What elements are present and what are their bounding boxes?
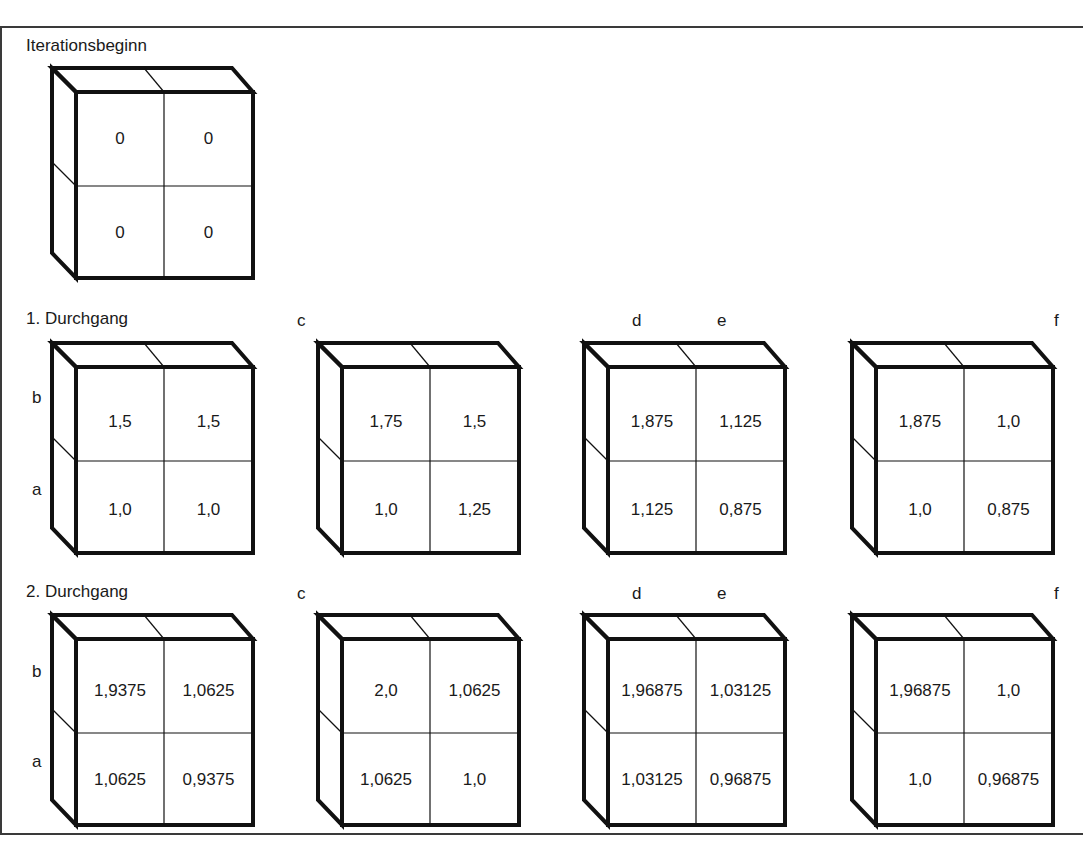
cell-bottom-right: 0,9375 bbox=[164, 770, 253, 790]
cell-bottom-left: 1,0625 bbox=[342, 770, 430, 790]
cell-bottom-left: 1,0 bbox=[342, 500, 430, 520]
cell-bottom-left: 0 bbox=[76, 223, 164, 243]
side-label-a-pass2: a bbox=[32, 752, 41, 772]
cell-top-right: 0 bbox=[164, 129, 253, 149]
row-heading-start: Iterationsbeginn bbox=[26, 36, 147, 56]
cell-top-right: 1,03125 bbox=[696, 681, 785, 701]
cube-pass2-f: 1,96875 1,0 1,0 0,96875 bbox=[852, 615, 1062, 830]
cell-top-right: 1,0 bbox=[964, 412, 1053, 432]
cube-label-f-pass2: f bbox=[1054, 584, 1059, 604]
cube-shape-icon bbox=[318, 615, 528, 830]
cube-pass1-c: 1,75 1,5 1,0 1,25 bbox=[318, 343, 528, 558]
cube-pass2-c: 2,0 1,0625 1,0625 1,0 bbox=[318, 615, 528, 830]
cell-bottom-left: 1,0625 bbox=[76, 770, 164, 790]
cell-top-left: 2,0 bbox=[342, 681, 430, 701]
cube-pass1-f: 1,875 1,0 1,0 0,875 bbox=[852, 343, 1062, 558]
row-heading-pass-1: 1. Durchgang bbox=[26, 309, 128, 329]
cell-bottom-right: 1,0 bbox=[430, 770, 519, 790]
cell-top-right: 1,125 bbox=[696, 412, 785, 432]
side-label-b-pass2: b bbox=[32, 662, 41, 682]
cube-shape-icon bbox=[52, 615, 262, 830]
cell-top-left: 1,875 bbox=[876, 412, 964, 432]
cube-label-c: c bbox=[297, 311, 306, 331]
cell-top-left: 1,96875 bbox=[876, 681, 964, 701]
cube-pass1-ab: 1,5 1,5 1,0 1,0 bbox=[52, 343, 262, 558]
cell-bottom-right: 1,25 bbox=[430, 500, 519, 520]
cube-shape-icon bbox=[852, 343, 1062, 558]
cube-shape-icon bbox=[52, 343, 262, 558]
cell-bottom-left: 1,0 bbox=[876, 500, 964, 520]
row-heading-pass-2: 2. Durchgang bbox=[26, 582, 128, 602]
cell-top-right: 1,0 bbox=[964, 681, 1053, 701]
cube-shape-icon bbox=[52, 68, 262, 283]
cell-top-right: 1,0625 bbox=[164, 681, 253, 701]
cell-bottom-right: 0,875 bbox=[696, 500, 785, 520]
cube-pass2-ab: 1,9375 1,0625 1,0625 0,9375 bbox=[52, 615, 262, 830]
frame-top-border bbox=[0, 26, 1083, 28]
cube-shape-icon bbox=[584, 615, 794, 830]
cell-bottom-left: 1,0 bbox=[876, 770, 964, 790]
cell-bottom-right: 0,875 bbox=[964, 500, 1053, 520]
cell-top-left: 1,75 bbox=[342, 412, 430, 432]
cube-shape-icon bbox=[584, 343, 794, 558]
cell-top-left: 1,96875 bbox=[608, 681, 696, 701]
cube-start: 0 0 0 0 bbox=[52, 68, 262, 283]
frame-bottom-border bbox=[0, 833, 1083, 835]
cell-bottom-right: 0 bbox=[164, 223, 253, 243]
cube-label-e-pass2: e bbox=[717, 584, 726, 604]
cell-bottom-right: 1,0 bbox=[164, 500, 253, 520]
cell-top-right: 1,5 bbox=[430, 412, 519, 432]
cube-label-d-pass2: d bbox=[632, 584, 641, 604]
cube-label-c-pass2: c bbox=[297, 584, 306, 604]
cube-label-f: f bbox=[1054, 311, 1059, 331]
cell-bottom-left: 1,125 bbox=[608, 500, 696, 520]
cube-pass2-de: 1,96875 1,03125 1,03125 0,96875 bbox=[584, 615, 794, 830]
cube-shape-icon bbox=[318, 343, 528, 558]
cell-top-left: 0 bbox=[76, 129, 164, 149]
cell-top-left: 1,875 bbox=[608, 412, 696, 432]
frame-left-border bbox=[0, 26, 2, 835]
cell-top-right: 1,0625 bbox=[430, 681, 519, 701]
side-label-b: b bbox=[32, 388, 41, 408]
cube-shape-icon bbox=[852, 615, 1062, 830]
cell-top-right: 1,5 bbox=[164, 412, 253, 432]
cell-bottom-left: 1,0 bbox=[76, 500, 164, 520]
cell-bottom-right: 0,96875 bbox=[964, 770, 1053, 790]
side-label-a: a bbox=[32, 480, 41, 500]
cube-label-e: e bbox=[717, 311, 726, 331]
cell-bottom-right: 0,96875 bbox=[696, 770, 785, 790]
cell-bottom-left: 1,03125 bbox=[608, 770, 696, 790]
cube-pass1-de: 1,875 1,125 1,125 0,875 bbox=[584, 343, 794, 558]
cell-top-left: 1,5 bbox=[76, 412, 164, 432]
cube-label-d: d bbox=[632, 311, 641, 331]
cell-top-left: 1,9375 bbox=[76, 681, 164, 701]
